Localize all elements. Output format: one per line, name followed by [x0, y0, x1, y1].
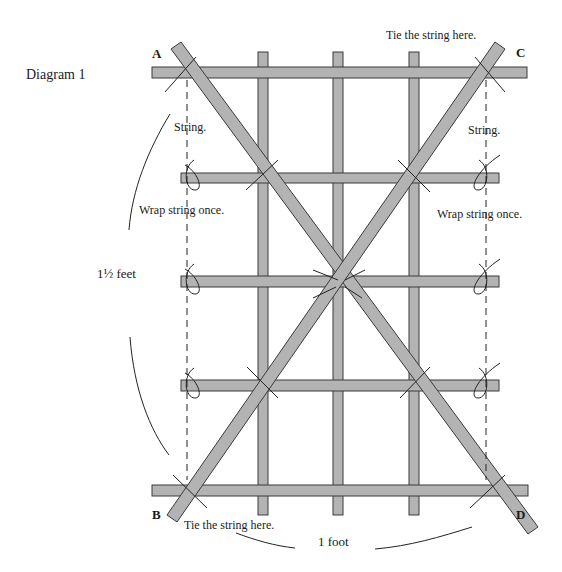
diagram-title: Diagram 1	[26, 67, 85, 82]
diagonal-stick-a-d	[171, 42, 538, 534]
corner-label-b: B	[152, 507, 161, 522]
kite-frame-diagram: Diagram 1 A C B D Tie the string here. T…	[0, 0, 562, 572]
height-label: 1½ feet	[97, 266, 136, 281]
tie-label-top: Tie the string here.	[386, 28, 476, 42]
corner-label-c: C	[516, 45, 525, 60]
height-arc-bottom	[130, 337, 169, 455]
wrap-label-right: Wrap string once.	[437, 207, 522, 221]
corner-label-a: A	[152, 46, 162, 61]
tie-label-bottom: Tie the string here.	[184, 518, 274, 532]
horizontal-bar-bottom	[152, 485, 528, 496]
corner-label-d: D	[516, 507, 525, 522]
horizontal-bar-2	[181, 173, 499, 183]
width-label: 1 foot	[318, 534, 349, 549]
width-arc-right	[375, 527, 472, 549]
wrap-label-left: Wrap string once.	[139, 203, 224, 217]
diagonal-sticks	[167, 42, 538, 534]
string-label-left: String.	[174, 120, 206, 134]
string-label-right: String.	[468, 123, 500, 137]
width-arc-left	[236, 533, 295, 548]
horizontal-bar-4	[181, 380, 499, 391]
